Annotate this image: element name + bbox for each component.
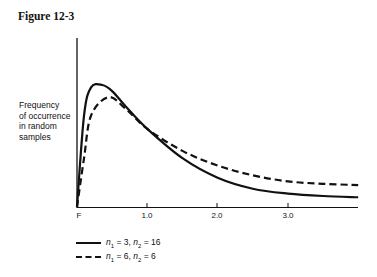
plot-area	[0, 0, 377, 277]
series-solid-line	[77, 84, 358, 207]
legend-label: n1 = 3, n2 = 16	[106, 237, 160, 249]
legend: n1 = 3, n2 = 16 n1 = 6, n2 = 6	[76, 236, 160, 264]
legend-item-solid: n1 = 3, n2 = 16	[76, 236, 160, 250]
x-tick-label-origin: F	[77, 211, 82, 220]
legend-label: n1 = 6, n2 = 6	[106, 251, 156, 263]
solid-line-swatch	[76, 242, 101, 244]
x-tick-label: 2.0	[211, 211, 222, 220]
series-dashed-line	[77, 97, 358, 207]
x-tick-label: 1.0	[141, 211, 152, 220]
dashed-line-swatch	[76, 256, 101, 258]
x-tick-label: 3.0	[282, 211, 293, 220]
legend-item-dashed: n1 = 6, n2 = 6	[76, 250, 160, 264]
